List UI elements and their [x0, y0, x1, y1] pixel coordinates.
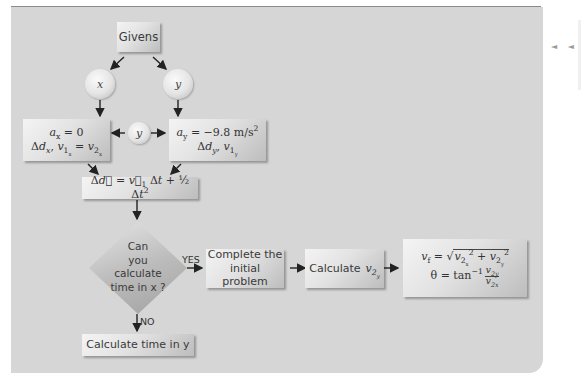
x-givens-box: ax = 0 Δdx, v1x = v2x [23, 119, 110, 161]
calculate-time-y-box: Calculate time in y [82, 334, 194, 356]
no-label: NO [140, 316, 155, 327]
calculate-v2y-box: Calculate v2y [305, 249, 384, 288]
yes-label: YES [182, 254, 200, 265]
x-component-circle: x [85, 69, 115, 99]
x-acceleration: ax = 0 [49, 126, 83, 140]
result-box: vf = √v2x2 + v2y2 θ = tan−1v2yv2x [403, 239, 527, 297]
givens-label: Givens [119, 30, 158, 44]
complete-problem-box: Complete the initial problem [206, 249, 284, 288]
y-component-circle: y [163, 69, 193, 99]
kinematics-equation-box: Δd⃗ = v⃗1 Δt + ½ Δt2 [82, 177, 198, 199]
y-link-circle: y [128, 122, 150, 144]
angle-formula: θ = tan−1v2yv2x [431, 266, 500, 286]
v2y-symbol: v2y [366, 262, 380, 276]
back-arrows-icon[interactable]: ◄ ◄ [551, 42, 578, 51]
final-velocity-formula: vf = √v2x2 + v2y2 [421, 250, 509, 264]
x-displacement-velocity: Δdx, v1x = v2x [31, 140, 102, 154]
y-acceleration: ay = −9.8 m/s2 [176, 126, 258, 140]
givens-box: Givens [117, 22, 160, 52]
decision-diamond: Can you calculate time in x ? [89, 222, 187, 314]
y-displacement-velocity: Δdy, v1y [197, 140, 238, 154]
y-givens-box: ay = −9.8 m/s2 Δdy, v1y [169, 119, 266, 161]
